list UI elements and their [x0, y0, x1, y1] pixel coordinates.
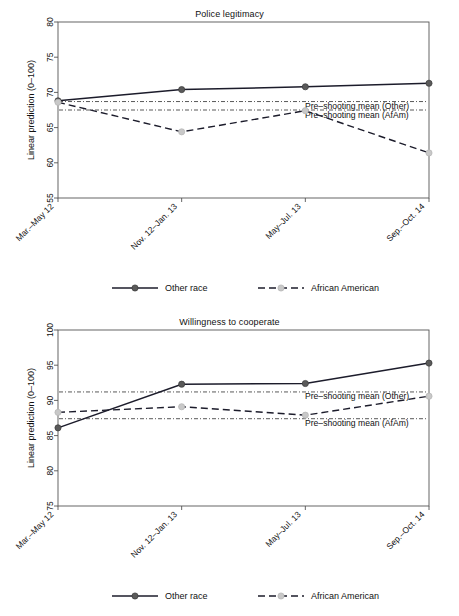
data-point-marker — [179, 129, 185, 135]
data-point-marker — [179, 381, 185, 387]
chart-panel-police-legitimacy: Police legitimacy 556065707580Linear pre… — [0, 0, 459, 308]
y-axis-tick-label: 80 — [45, 17, 55, 27]
data-point-marker — [426, 393, 432, 399]
legend-marker-other-race — [132, 285, 138, 291]
legend-marker-other-race — [132, 593, 138, 599]
reference-line-label: Pre–shooting mean (Other) — [305, 391, 409, 401]
x-axis-tick-label: Mar.–May 12 — [14, 509, 56, 551]
y-axis-tick-label: 65 — [45, 123, 55, 133]
data-point-marker — [302, 412, 308, 418]
x-axis-tick-label: May–Jul. 13 — [263, 509, 303, 549]
y-axis-tick-label: 90 — [45, 395, 55, 405]
data-point-marker — [426, 80, 432, 86]
data-point-marker — [302, 380, 308, 386]
legend-marker-african-american — [278, 593, 284, 599]
legend-label-african-american[interactable]: African American — [311, 591, 379, 601]
data-point-marker — [55, 425, 61, 431]
x-axis-tick-label: Nov. 12–Jan. 13 — [129, 201, 180, 252]
legend-marker-african-american — [278, 285, 284, 291]
data-point-marker — [426, 360, 432, 366]
data-point-marker — [302, 84, 308, 90]
reference-line-label: Pre–shooting mean (AfAm) — [305, 110, 409, 120]
y-axis-tick-label: 80 — [45, 466, 55, 476]
x-axis-tick-label: Mar.–May 12 — [14, 201, 56, 243]
data-point-marker — [55, 99, 61, 105]
plot-area-willingness-to-cooperate: 7580859095100Linear prediction (0–100)Ma… — [0, 308, 459, 616]
legend-label-other-race[interactable]: Other race — [165, 591, 208, 601]
y-axis-tick-label: 60 — [45, 158, 55, 168]
y-axis-label: Linear prediction (0–100) — [26, 368, 36, 468]
y-axis-tick-label: 100 — [45, 323, 55, 337]
series-line — [58, 83, 429, 101]
data-point-marker — [302, 108, 308, 114]
y-axis-tick-label: 55 — [45, 193, 55, 203]
y-axis-tick-label: 75 — [45, 52, 55, 62]
legend-label-other-race[interactable]: Other race — [165, 283, 208, 293]
data-point-marker — [179, 86, 185, 92]
data-point-marker — [55, 409, 61, 415]
data-point-marker — [179, 404, 185, 410]
reference-line-label: Pre–shooting mean (AfAm) — [305, 418, 409, 428]
legend-label-african-american[interactable]: African American — [311, 283, 379, 293]
y-axis-label: Linear prediction (0–100) — [26, 60, 36, 160]
plot-area-police-legitimacy: 556065707580Linear prediction (0–100)Mar… — [0, 0, 459, 308]
data-point-marker — [426, 150, 432, 156]
y-axis-tick-label: 70 — [45, 87, 55, 97]
x-axis-tick-label: May–Jul. 13 — [263, 201, 303, 241]
y-axis-tick-label: 85 — [45, 431, 55, 441]
y-axis-tick-label: 95 — [45, 360, 55, 370]
x-axis-tick-label: Nov. 12–Jan. 13 — [129, 509, 180, 560]
x-axis-tick-label: Sep.–Oct. 14 — [384, 509, 426, 551]
x-axis-tick-label: Sep.–Oct. 14 — [384, 201, 426, 243]
chart-panel-willingness-to-cooperate: Willingness to cooperate 7580859095100Li… — [0, 308, 459, 616]
y-axis-tick-label: 75 — [45, 501, 55, 511]
